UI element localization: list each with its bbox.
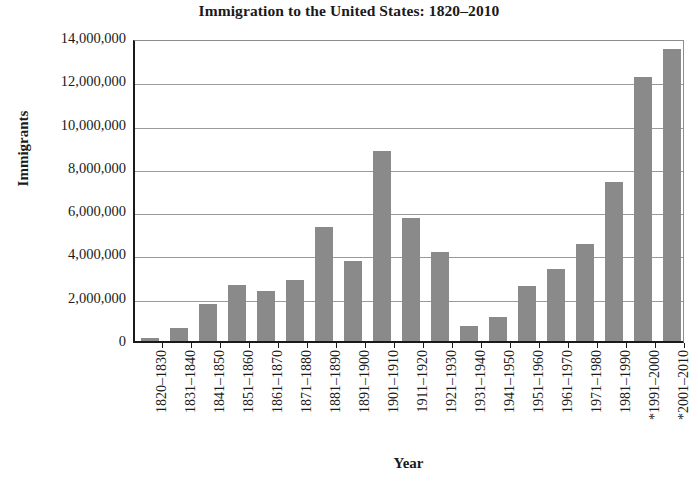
x-tick-label: 1941–1950 xyxy=(502,350,518,450)
x-tick-label: 1981–1990 xyxy=(618,350,634,450)
x-tick-mark xyxy=(394,343,395,348)
x-tick-mark xyxy=(452,343,453,348)
x-tick-label: 1841–1850 xyxy=(212,350,228,450)
bar-slot xyxy=(193,41,222,341)
bar-slot xyxy=(135,41,164,341)
bar-slot xyxy=(657,41,686,341)
x-tick-mark xyxy=(684,343,685,348)
bar xyxy=(634,77,652,341)
x-tick-label: 1851–1860 xyxy=(241,350,257,450)
chart-title: Immigration to the United States: 1820–2… xyxy=(0,2,698,20)
bar-slot xyxy=(222,41,251,341)
x-axis-title: Year xyxy=(133,455,684,472)
y-tick-label: 2,000,000 xyxy=(0,290,126,307)
x-tick-label: 1820–1830 xyxy=(154,350,170,450)
bar xyxy=(518,286,536,341)
bar xyxy=(228,285,246,341)
bar xyxy=(199,304,217,341)
y-tick-label: 0 xyxy=(0,333,126,350)
x-tick-label: 1891–1900 xyxy=(357,350,373,450)
x-tick-label: 1911–1920 xyxy=(415,350,431,450)
bar-slot xyxy=(541,41,570,341)
bar-slot xyxy=(599,41,628,341)
bar-slot xyxy=(164,41,193,341)
bar xyxy=(431,252,449,341)
x-tick-label: 1921–1930 xyxy=(444,350,460,450)
plot-area xyxy=(133,40,684,343)
x-tick-label: 1861–1870 xyxy=(270,350,286,450)
x-tick-mark xyxy=(481,343,482,348)
bar xyxy=(576,244,594,341)
bar xyxy=(547,269,565,342)
x-tick-label: 1951–1960 xyxy=(531,350,547,450)
bar xyxy=(257,291,275,341)
bar xyxy=(460,326,478,341)
x-tick-mark xyxy=(423,343,424,348)
x-tick-label: 1931–1940 xyxy=(473,350,489,450)
x-tick-mark xyxy=(510,343,511,348)
y-axis-title: Immigrants xyxy=(15,84,32,214)
x-tick-label: *2001–2010 xyxy=(676,350,692,450)
bar xyxy=(315,227,333,341)
bar xyxy=(489,317,507,341)
bar-slot xyxy=(367,41,396,341)
x-tick-mark xyxy=(365,343,366,348)
bar xyxy=(286,280,304,341)
x-tick-label: 1871–1880 xyxy=(299,350,315,450)
x-tick-mark xyxy=(278,343,279,348)
x-tick-mark xyxy=(655,343,656,348)
bar-slot xyxy=(251,41,280,341)
x-tick-label: 1971–1980 xyxy=(589,350,605,450)
x-tick-mark xyxy=(626,343,627,348)
bar-slot xyxy=(628,41,657,341)
bar-slot xyxy=(309,41,338,341)
y-tick-label: 14,000,000 xyxy=(0,30,126,47)
bar-slot xyxy=(425,41,454,341)
x-tick-label: 1831–1840 xyxy=(183,350,199,450)
x-tick-mark xyxy=(191,343,192,348)
bar-slot xyxy=(454,41,483,341)
x-tick-mark xyxy=(539,343,540,348)
bar-slot xyxy=(570,41,599,341)
immigration-bar-chart: Immigration to the United States: 1820–2… xyxy=(0,0,698,482)
bars-layer xyxy=(135,41,683,341)
x-tick-mark xyxy=(568,343,569,348)
bar xyxy=(141,338,159,341)
x-tick-mark xyxy=(249,343,250,348)
bar xyxy=(170,328,188,341)
bar-slot xyxy=(483,41,512,341)
x-tick-mark xyxy=(597,343,598,348)
x-tick-mark xyxy=(220,343,221,348)
bar xyxy=(663,49,681,341)
x-tick-mark xyxy=(162,343,163,348)
x-tick-mark xyxy=(336,343,337,348)
bar xyxy=(402,218,420,341)
bar-slot xyxy=(512,41,541,341)
x-tick-label: *1991–2000 xyxy=(647,350,663,450)
y-tick-label: 4,000,000 xyxy=(0,246,126,263)
bar-slot xyxy=(338,41,367,341)
bar xyxy=(344,261,362,341)
x-tick-label: 1881–1890 xyxy=(328,350,344,450)
bar-slot xyxy=(396,41,425,341)
bar xyxy=(605,182,623,341)
x-tick-label: 1961–1970 xyxy=(560,350,576,450)
x-tick-mark xyxy=(307,343,308,348)
bar xyxy=(373,151,391,341)
x-tick-label: 1901–1910 xyxy=(386,350,402,450)
bar-slot xyxy=(280,41,309,341)
